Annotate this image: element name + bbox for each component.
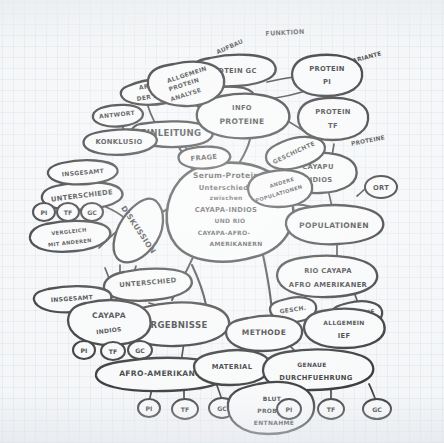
node-antwort[interactable]: ANTWORT (93, 105, 143, 127)
node-material[interactable]: MATERIAL (194, 350, 270, 385)
genaue-line-1: GENAUE (297, 361, 326, 368)
node-unterschied-mid[interactable]: UNTERSCHIED (104, 269, 192, 301)
ink-layer: Serum-Protein Unterschiede zwischen CAYA… (0, 0, 444, 443)
ief-line-2: IEF (338, 332, 351, 340)
node-insgesamt-top[interactable]: INSGESAMT (48, 160, 118, 184)
node-populationen[interactable]: POPULATIONEN (286, 205, 383, 244)
leaf-pi-cayapa[interactable]: PI (73, 341, 95, 359)
genaue-line-2: DURCHFUEHRUNG (279, 374, 353, 382)
center-line-1: Serum-Protein (193, 171, 259, 180)
blut-line-1: BLUT (263, 395, 282, 402)
tf-label-3: TF (181, 406, 189, 413)
mindmap-sheet: Serum-Protein Unterschiede zwischen CAYA… (0, 0, 444, 443)
center-line-6: CAYAPA-AFRO- (198, 229, 251, 236)
tf-label-1: TF (64, 209, 72, 216)
node-diskussion[interactable]: DISKUSSION (114, 199, 163, 263)
center-line-5: UND RIO (214, 217, 245, 224)
leaf-pi-methode[interactable]: PI (277, 399, 301, 419)
node-vergleich-mit-anderen[interactable]: VERGLEICH MIT ANDEREN (30, 221, 111, 252)
pi-label-3: PI (146, 405, 153, 412)
mindmap-canvas: Serum-Protein Unterschiede zwischen CAYA… (0, 0, 444, 443)
protein-tf-line-1: PROTEIN (315, 108, 351, 116)
center-line-3: zwischen (209, 194, 242, 201)
protein-tf-line-2: TF (328, 122, 338, 130)
gc-label-4: GC (372, 406, 382, 413)
node-allgemein-ief[interactable]: ALLGEMEIN IEF (304, 309, 385, 348)
gc-label-3: GC (217, 405, 227, 412)
protein-pi-line-1: PROTEIN (309, 65, 345, 73)
rio-line-2: AFRO AMERIKANER (289, 281, 368, 289)
center-line-2: Unterschiede (199, 184, 254, 192)
node-andere-populationen[interactable]: ANDERE POPULATIONEN (248, 170, 312, 207)
methode-label: METHODE (242, 328, 286, 337)
pi-label-2: PI (81, 347, 88, 354)
leaf-pi-afro[interactable]: PI (138, 399, 160, 417)
konklusio-label: KONKLUSIO (95, 138, 142, 146)
ergebnisse-label: ERGEBNISSE (144, 320, 207, 330)
tf-label-2: TF (109, 348, 117, 355)
leaf-tf-cayapa[interactable]: TF (101, 342, 125, 360)
info-line-1: INFO (232, 104, 252, 112)
leaf-gc-diskussion[interactable]: GC (81, 203, 103, 221)
rio-line-1: RIO CAYAPA (304, 267, 352, 275)
funktion-label: FUNKTION (265, 28, 304, 38)
node-rio-cayapa-afro[interactable]: RIO CAYAPA AFRO AMERIKANER (277, 256, 377, 297)
pi-label-1: PI (41, 209, 48, 216)
gc-label-1: GC (87, 209, 97, 216)
node-frage[interactable]: FRAGE (178, 147, 230, 169)
node-unterschiede-top[interactable]: UNTERSCHIEDE (42, 182, 123, 210)
aufbau-label: AUFBAU (215, 37, 244, 55)
center-line-4: CAYAPA-INDIOS (195, 206, 258, 214)
leaf-gc-methode[interactable]: GC (363, 399, 391, 419)
node-aufbau: AUFBAU (215, 37, 244, 55)
node-protein-pi[interactable]: PROTEIN PI (292, 55, 362, 96)
ief-line-1: ALLGEMEIN (323, 319, 364, 326)
node-funktion: FUNKTION (265, 28, 304, 38)
ort-label: ORT (373, 184, 389, 192)
node-methode[interactable]: METHODE (226, 316, 302, 351)
leaf-tf-diskussion[interactable]: TF (57, 203, 79, 221)
leaf-pi-diskussion[interactable]: PI (33, 203, 55, 221)
tf-label-4: TF (327, 406, 335, 413)
leaf-tf-afro[interactable]: TF (172, 399, 198, 419)
protein-pi-line-2: PI (323, 78, 331, 86)
node-cayapa-indios[interactable]: CAYAPA INDIOS (68, 300, 151, 345)
populationen-label: POPULATIONEN (299, 221, 369, 230)
node-allgemein-protein-analyse[interactable]: ALLGEMEIN PROTEIN ANALYSE (148, 62, 224, 106)
node-protein-tf[interactable]: PROTEIN TF (298, 98, 368, 140)
gc-label-2: GC (135, 347, 145, 354)
material-label: MATERIAL (212, 363, 253, 371)
node-ort[interactable]: ORT (365, 176, 397, 198)
leaf-gc-cayapa[interactable]: GC (128, 341, 152, 359)
center-line-7: AMERIKANERN (210, 240, 263, 247)
pi-label-4: PI (286, 406, 293, 413)
info-line-2: PROTEINE (219, 117, 264, 126)
leaf-tf-methode[interactable]: TF (318, 399, 344, 419)
cayapa-line-1: CAYAPA (92, 311, 126, 320)
node-konklusio[interactable]: KONKLUSIO (84, 129, 157, 154)
